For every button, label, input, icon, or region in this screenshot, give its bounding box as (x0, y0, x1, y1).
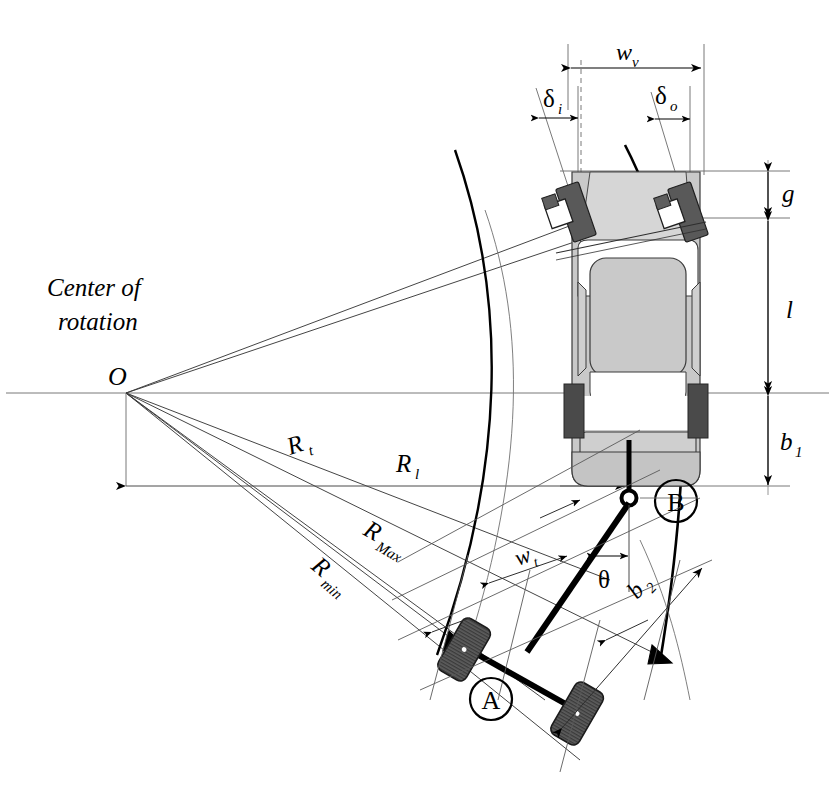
background (0, 0, 835, 792)
label-delta-i: δ (543, 85, 555, 112)
label-delta-i-sub: i (558, 101, 562, 117)
label-l: l (786, 296, 793, 323)
label-origin-o: O (108, 362, 127, 391)
label-wv-sub: v (632, 54, 639, 70)
left-side-trim (578, 282, 586, 376)
label-g: g (782, 180, 795, 207)
label-point-b: B (667, 488, 684, 517)
diagram-canvas: Center of rotation O R t R l R Max R min… (0, 0, 835, 792)
label-theta: θ (598, 566, 610, 593)
label-center-of-rotation-line1: Center of (47, 274, 144, 301)
rear-left-wheel (564, 384, 584, 438)
rear-right-wheel (688, 384, 708, 438)
rear-window (590, 372, 686, 400)
label-rl-sub: l (415, 466, 419, 482)
right-side-trim (692, 282, 700, 376)
vehicle-roof (590, 258, 686, 376)
label-delta-o: δ (655, 82, 667, 109)
label-point-a: A (482, 686, 501, 715)
label-wv: w (616, 39, 632, 65)
label-b1-sub: 1 (795, 444, 803, 460)
label-rl: R (395, 450, 411, 477)
label-b1: b (780, 428, 793, 455)
turning-geometry-svg: Center of rotation O R t R l R Max R min… (0, 0, 835, 792)
rear-underbody-gap (578, 396, 694, 430)
label-delta-o-sub: o (670, 98, 678, 114)
label-center-of-rotation-line2: rotation (58, 308, 138, 335)
